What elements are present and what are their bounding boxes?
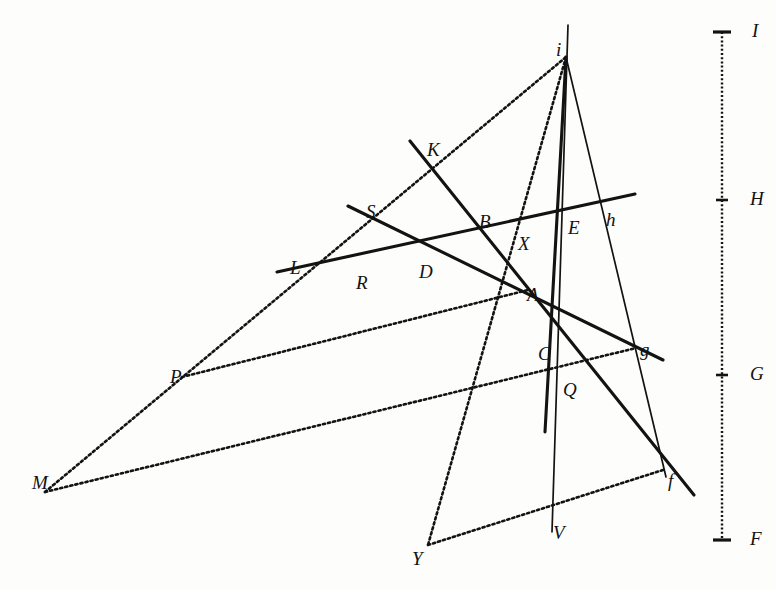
point-label-K: K [427,140,440,159]
dotted-M-Q-g [45,348,636,492]
diagram-canvas [0,0,776,589]
point-label-M: M [32,473,48,492]
point-label-V: V [553,523,565,542]
geometric-figure: iKSBEhXLRDACgPQMfVY IHGF [0,0,776,589]
point-label-A: A [527,285,539,304]
point-label-f: f [668,471,673,490]
line-i-g-f [566,57,666,477]
point-label-i: i [556,40,561,59]
point-label-P: P [170,367,182,386]
scale-label-F: F [750,529,762,548]
point-label-h: h [606,210,616,229]
point-label-X: X [518,234,530,253]
scale-group [713,32,731,540]
point-label-S: S [366,202,376,221]
point-label-g: g [640,340,650,359]
point-label-B: B [479,212,491,231]
point-label-C: C [538,344,551,363]
scale-label-G: G [750,364,764,383]
scale-label-H: H [750,189,764,208]
point-label-Q: Q [563,380,577,399]
dotted-Y-V-f [428,470,663,545]
line-S-D-g [348,206,663,360]
point-label-R: R [356,273,368,292]
scale-label-I: I [752,21,758,40]
lines-group [45,25,694,545]
point-label-Y: Y [412,549,423,568]
point-label-E: E [568,218,580,237]
line-i-C-Y [545,57,566,432]
point-label-D: D [419,262,433,281]
point-label-L: L [290,258,301,277]
